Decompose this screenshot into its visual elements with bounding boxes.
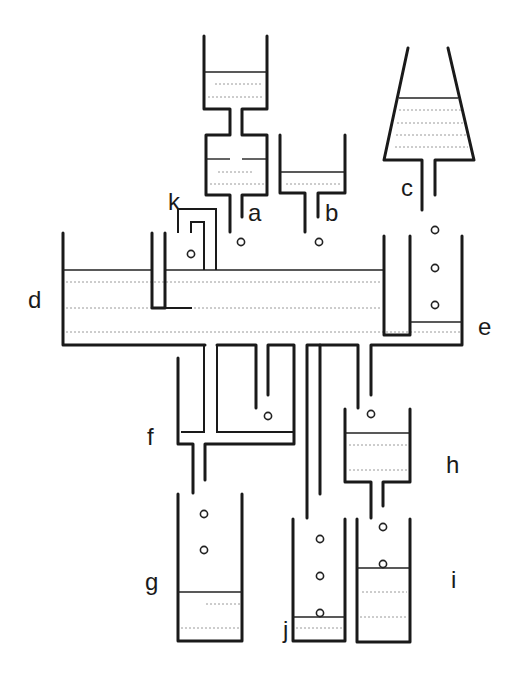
- pipe-manifold-f: [178, 345, 358, 518]
- bubble: [315, 238, 322, 245]
- bubble: [431, 301, 438, 308]
- vessel-b: [280, 135, 345, 246]
- vessel-c: [384, 48, 474, 210]
- bubble: [316, 572, 323, 579]
- bubble: [200, 510, 207, 517]
- trough-d: [63, 233, 462, 345]
- label-g: g: [145, 568, 158, 595]
- label-h: h: [446, 451, 459, 478]
- beaker-j: [293, 519, 345, 641]
- label-k: k: [168, 188, 181, 215]
- label-e: e: [478, 313, 491, 340]
- bubble: [316, 535, 323, 542]
- label-b: b: [325, 199, 338, 226]
- bubble: [379, 560, 386, 567]
- bubble: [264, 412, 271, 419]
- label-f: f: [147, 423, 154, 450]
- label-c: c: [401, 174, 413, 201]
- bubble: [187, 250, 194, 257]
- bubble: [316, 609, 323, 616]
- bubble: [237, 238, 244, 245]
- u-tube-k: [178, 209, 216, 270]
- label-a: a: [248, 199, 262, 226]
- bubble: [200, 546, 207, 553]
- vessel-diagram: a b c k d e f g h i j: [0, 0, 517, 677]
- label-j: j: [282, 616, 288, 643]
- label-i: i: [451, 566, 456, 593]
- beaker-g: [178, 494, 242, 641]
- bubble: [367, 410, 374, 417]
- label-d: d: [28, 286, 41, 313]
- bubble: [379, 523, 386, 530]
- compartment-e: [371, 226, 462, 395]
- beaker-i: [357, 519, 410, 642]
- vessel-h: [345, 409, 410, 518]
- bubble: [431, 264, 438, 271]
- bubble: [431, 226, 438, 233]
